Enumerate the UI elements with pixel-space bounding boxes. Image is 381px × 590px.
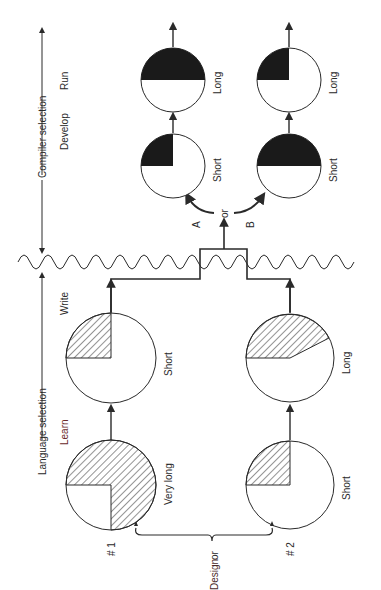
run-b-duration: Long — [328, 72, 339, 94]
write-1-duration: Short — [163, 352, 174, 376]
compiler-selection-header: Compiler selection Develop Run — [37, 30, 70, 251]
language-selection-label: Language selection — [37, 388, 48, 475]
learn-label: Learn — [59, 419, 70, 445]
run-a-duration: Long — [212, 72, 223, 94]
develop-pie-a — [141, 134, 205, 198]
design-option-2: # 2 — [285, 542, 296, 556]
language-selection-header: Language selection Learn Write — [37, 275, 70, 475]
learn-pie-1 — [66, 440, 156, 530]
branch-a-label: A — [191, 221, 202, 228]
language-path-2: Long Short — [246, 314, 352, 529]
run-pie-a — [141, 48, 205, 112]
compiler-path-b: Short Long — [257, 26, 339, 198]
learn-2-duration: Short — [341, 476, 352, 500]
compiler-path-a: Short Long — [141, 26, 223, 198]
design-label: Design — [209, 559, 220, 590]
merge-connector — [111, 222, 290, 313]
run-pie-b — [257, 48, 321, 112]
language-path-1: Short Very long — [66, 313, 174, 530]
develop-b-duration: Short — [328, 158, 339, 182]
develop-pie-b — [257, 134, 321, 198]
write-label: Write — [59, 291, 70, 315]
diagram-canvas: Compiler selection Develop Run Language … — [0, 0, 381, 590]
learn-pie-2 — [246, 441, 334, 529]
branch-or-label: or — [219, 208, 230, 218]
compiler-selection-label: Compiler selection — [37, 96, 48, 178]
run-label: Run — [59, 72, 70, 90]
compiler-branch: or A B — [188, 197, 262, 228]
design-option-1: # 1 — [106, 542, 117, 556]
develop-label: Develop — [59, 113, 70, 150]
learn-1-duration: Very long — [163, 463, 174, 505]
branch-b-arrow — [234, 197, 262, 213]
design-bracket: or Design # 1 # 2 — [106, 521, 296, 590]
design-or-label: or — [209, 550, 220, 560]
phase-separator-wave — [18, 255, 354, 269]
write-pie-1 — [66, 313, 156, 403]
write-2-duration: Long — [341, 352, 352, 374]
write-pie-2 — [246, 314, 334, 402]
branch-b-label: B — [245, 221, 256, 228]
develop-a-duration: Short — [212, 158, 223, 182]
branch-a-arrow — [188, 197, 214, 213]
